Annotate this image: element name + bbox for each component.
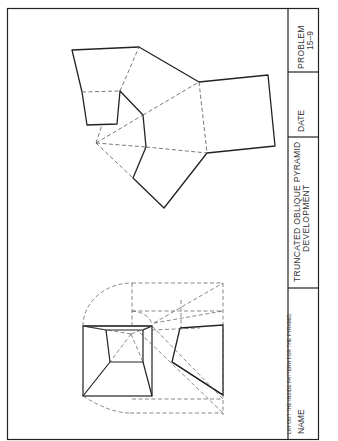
pyramid-front-view [172,325,223,395]
pattern-development [72,47,275,208]
date-label: DATE [296,110,306,132]
construction-lines [83,283,223,415]
pattern-fold-lines [82,47,207,178]
pyramid-top-view [83,326,152,396]
instruction-text: LAY OUT THE INSIDE PATTERN FOR THE PYRAM… [287,312,292,434]
name-label: NAME [296,409,306,434]
drawing-subtitle: DEVELOPMENT [301,184,311,252]
problem-number: 15–9 [305,31,315,50]
drawing-sheet: PROBLEM 15–9 DATE TRUNCATED OBLIQUE PYRA… [0,0,338,441]
sheet-border [8,9,319,440]
